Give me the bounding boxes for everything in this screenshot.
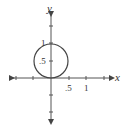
x-tick-label-half: .5 [65,83,72,93]
coordinate-plane: y x .5 1 .5 1 [0,0,134,126]
x-axis-label: x [114,71,120,83]
y-tick-label-half: .5 [39,56,46,66]
y-tick-label-one: 1 [41,38,46,48]
y-axis-label: y [46,2,52,14]
x-tick-label-one: 1 [84,83,89,93]
